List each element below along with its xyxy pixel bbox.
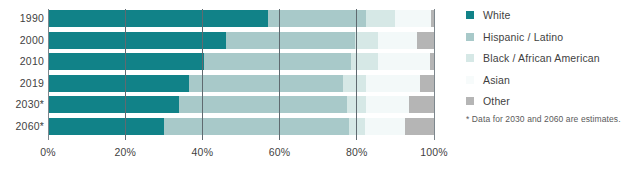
bar-segment: [417, 32, 434, 49]
bar-segment: [430, 53, 434, 70]
x-axis-tick-label: 60%: [269, 146, 291, 158]
bar-segment: [347, 96, 366, 113]
bar-segment: [355, 32, 378, 49]
x-axis-tick-label: 20%: [114, 146, 136, 158]
y-axis-tick-label: 1990: [0, 10, 44, 27]
legend-swatch-icon: [466, 76, 474, 84]
legend-item[interactable]: Asian: [466, 73, 510, 87]
bar-segment: [48, 10, 268, 27]
y-axis-labels: 19902000201020192030*2060*: [0, 9, 44, 140]
legend-swatch-icon: [466, 97, 474, 105]
y-axis-tick-label: 2060*: [0, 118, 44, 135]
legend-item[interactable]: Hispanic / Latino: [466, 30, 563, 44]
legend-item-label: Other: [483, 95, 510, 107]
legend-item-label: Hispanic / Latino: [483, 31, 563, 43]
legend-swatch-icon: [466, 11, 474, 19]
x-axis-tick-label: 40%: [192, 146, 214, 158]
y-axis-tick-label: 2030*: [0, 96, 44, 113]
bar-segment: [48, 75, 189, 92]
plot-area: [48, 9, 434, 140]
legend-swatch-icon: [466, 54, 474, 62]
legend-item[interactable]: Black / African American: [466, 51, 600, 65]
bar-segment: [431, 10, 434, 27]
bar-segment: [164, 118, 349, 135]
bar-segment: [48, 118, 164, 135]
bar-segment: [204, 53, 351, 70]
bar-segment: [395, 10, 431, 27]
legend-item[interactable]: White: [466, 8, 511, 22]
bar-segment: [268, 10, 366, 27]
bar-segment: [226, 32, 355, 49]
y-axis-tick-label: 2010: [0, 53, 44, 70]
bar-segment: [378, 53, 430, 70]
bar-segment: [48, 53, 204, 70]
bar-segment: [351, 53, 378, 70]
bar-segment: [189, 75, 343, 92]
y-axis-tick-label: 2019: [0, 75, 44, 92]
bar-segment: [378, 32, 417, 49]
x-axis-tick-label: 80%: [346, 146, 368, 158]
x-axis-tick-label: 100%: [420, 146, 448, 158]
bar-segment: [405, 118, 434, 135]
x-axis-labels: 0%20%40%60%80%100%: [48, 146, 434, 162]
bar-row: [48, 32, 434, 49]
chart-page: 19902000201020192030*2060* 0%20%40%60%80…: [0, 0, 634, 170]
bar-segment: [48, 32, 226, 49]
bar-segment: [179, 96, 347, 113]
legend-swatch-icon: [466, 33, 474, 41]
bar-segment: [365, 118, 406, 135]
bar-row: [48, 10, 434, 27]
bar-row: [48, 118, 434, 135]
bar-segment: [420, 75, 434, 92]
legend-item[interactable]: Other: [466, 94, 510, 108]
bar-segment: [343, 75, 366, 92]
bar-segment: [366, 96, 408, 113]
stacked-bar-chart: 19902000201020192030*2060* 0%20%40%60%80…: [0, 0, 456, 170]
bar-segment: [48, 96, 179, 113]
legend-item-label: Black / African American: [483, 52, 600, 64]
bar-row: [48, 96, 434, 113]
legend-footnote: * Data for 2030 and 2060 are estimates.: [466, 114, 621, 124]
bar-segment: [349, 118, 364, 135]
y-axis-tick-label: 2000: [0, 32, 44, 49]
bar-row: [48, 75, 434, 92]
bar-segment: [409, 96, 434, 113]
legend-item-label: Asian: [483, 74, 510, 86]
bar-segment: [366, 75, 420, 92]
legend-item-label: White: [483, 9, 511, 21]
bar-segment: [366, 10, 395, 27]
x-axis-tick-label: 0%: [40, 146, 56, 158]
bar-row: [48, 53, 434, 70]
chart-legend: WhiteHispanic / LatinoBlack / African Am…: [466, 8, 634, 133]
